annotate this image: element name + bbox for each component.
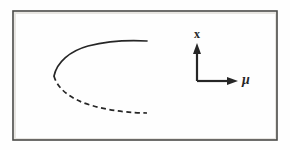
x-axis-arrow (193, 43, 201, 81)
mu-axis-label: μ (242, 73, 250, 87)
unstable-branch-curve (54, 76, 147, 113)
bifurcation-figure: x μ (0, 0, 290, 150)
x-axis-arrowhead (193, 43, 201, 54)
mu-axis-arrowhead (227, 77, 238, 85)
stable-branch-curve (54, 41, 147, 76)
figure-border (13, 11, 277, 140)
mu-axis-arrow (197, 77, 238, 85)
x-axis-label: x (194, 28, 200, 40)
